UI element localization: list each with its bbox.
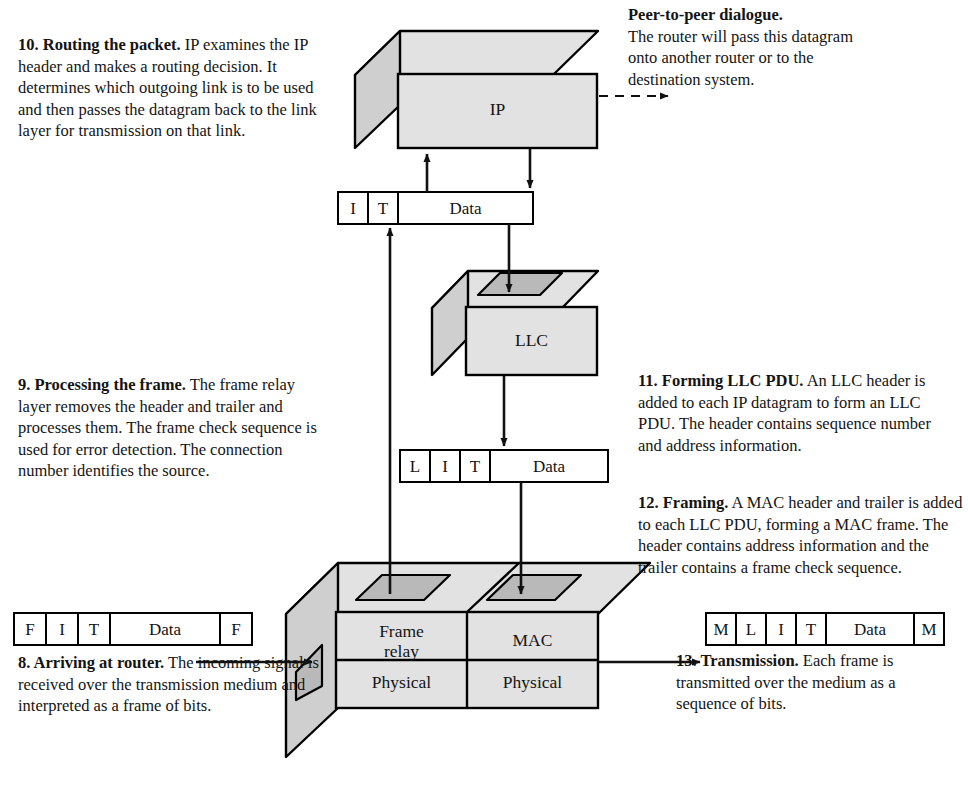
note-step-11: 11. Forming LLC PDU. An LLC header is ad… — [638, 370, 958, 456]
llc-cell-data: Data — [490, 458, 608, 475]
outframe-cell-i: I — [766, 621, 796, 638]
ip-box — [355, 31, 598, 148]
frame-relay-line2: relay — [384, 641, 419, 661]
router-mac-label: MAC — [467, 631, 598, 651]
note-step-11-lead: 11. Forming LLC PDU. — [638, 371, 803, 390]
note-step-8-lead: 8. Arriving at router. — [18, 653, 164, 672]
note-step-12-lead: 12. Framing. — [638, 493, 728, 512]
note-step-10: 10. Routing the packet. IP examines the … — [18, 34, 340, 142]
outframe-cell-l: L — [736, 621, 766, 638]
note-step-13: 13. Transmission. Each frame is transmit… — [676, 650, 958, 715]
router-frame-relay-label: Frame relay — [336, 622, 467, 661]
inframe-cell-f1: F — [14, 621, 46, 638]
note-peer-lead: Peer-to-peer dialogue. — [628, 4, 878, 26]
packet-cell-data: Data — [398, 200, 533, 217]
inframe-cell-i: I — [46, 621, 78, 638]
inframe-cell-f2: F — [220, 621, 252, 638]
note-step-9-lead: 9. Processing the frame. — [18, 375, 186, 394]
outframe-cell-m2: M — [914, 621, 944, 638]
inframe-cell-t: T — [78, 621, 110, 638]
note-step-10-lead: 10. Routing the packet. — [18, 35, 181, 54]
outframe-cell-m1: M — [706, 621, 736, 638]
note-peer-dialogue: Peer-to-peer dialogue. The router will p… — [628, 4, 878, 90]
frame-relay-line1: Frame — [379, 621, 424, 641]
note-peer-body: The router will pass this datagram onto … — [628, 26, 878, 91]
packet-cell-t: T — [368, 200, 398, 217]
llc-cell-l: L — [400, 458, 430, 475]
diagram-canvas: IP LLC Frame relay MAC Physical Physical… — [0, 0, 968, 787]
ip-box-label: IP — [398, 100, 597, 120]
llc-cell-i: I — [430, 458, 460, 475]
note-step-9: 9. Processing the frame. The frame relay… — [18, 374, 318, 482]
outframe-cell-t: T — [796, 621, 826, 638]
packet-cell-i: I — [338, 200, 368, 217]
llc-box-label: LLC — [466, 331, 597, 351]
router-physical-right-label: Physical — [467, 673, 598, 693]
note-step-12: 12. Framing. A MAC header and trailer is… — [638, 492, 966, 578]
llc-cell-t: T — [460, 458, 490, 475]
inframe-cell-data: Data — [110, 621, 220, 638]
outframe-cell-data: Data — [826, 621, 914, 638]
llc-box — [432, 271, 598, 375]
note-step-8: 8. Arriving at router. The incoming sign… — [18, 652, 328, 717]
router-physical-left-label: Physical — [336, 673, 467, 693]
note-step-13-lead: 13. Transmission. — [676, 651, 799, 670]
